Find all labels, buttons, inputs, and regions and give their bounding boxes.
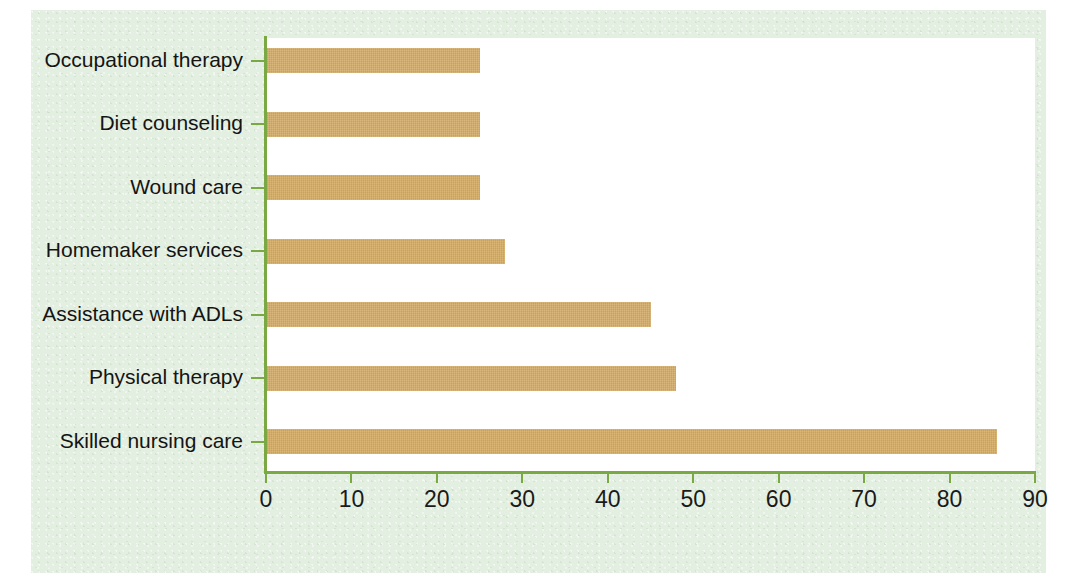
y-axis-tick: [251, 441, 264, 443]
y-axis-tick: [251, 123, 264, 125]
x-axis-tick-label: 10: [321, 486, 381, 513]
x-axis-tick: [265, 474, 267, 483]
bar: [266, 366, 676, 391]
y-axis-tick: [251, 187, 264, 189]
bar: [266, 239, 505, 264]
category-label: Skilled nursing care: [0, 429, 243, 453]
x-axis-line: [264, 471, 1036, 474]
x-axis-tick-label: 90: [1005, 486, 1065, 513]
x-axis-tick-label: 20: [407, 486, 467, 513]
bar: [266, 48, 480, 73]
category-label: Wound care: [0, 175, 243, 199]
x-axis-tick-label: 40: [578, 486, 638, 513]
x-axis-tick-label: 80: [920, 486, 980, 513]
y-axis-tick: [251, 377, 264, 379]
x-axis-tick-label: 50: [663, 486, 723, 513]
x-axis-tick: [607, 474, 609, 483]
x-axis-tick: [436, 474, 438, 483]
chart-figure: Occupational therapyDiet counselingWound…: [0, 0, 1077, 588]
bar: [266, 429, 997, 454]
x-axis-tick-label: 60: [749, 486, 809, 513]
category-label: Occupational therapy: [0, 48, 243, 72]
bar: [266, 302, 651, 327]
bar: [266, 175, 480, 200]
x-axis-tick: [350, 474, 352, 483]
x-axis-tick: [778, 474, 780, 483]
category-label: Homemaker services: [0, 238, 243, 262]
x-axis-tick: [1034, 474, 1036, 483]
x-axis-tick: [949, 474, 951, 483]
category-label: Diet counseling: [0, 111, 243, 135]
bar: [266, 112, 480, 137]
y-axis-line: [264, 36, 267, 474]
x-axis-tick: [863, 474, 865, 483]
y-axis-tick: [251, 250, 264, 252]
x-axis-tick: [692, 474, 694, 483]
y-axis-tick: [251, 60, 264, 62]
x-axis-tick-label: 0: [236, 486, 296, 513]
category-label: Physical therapy: [0, 365, 243, 389]
x-axis-tick: [521, 474, 523, 483]
x-axis-tick-label: 30: [492, 486, 552, 513]
y-axis-tick: [251, 314, 264, 316]
x-axis-tick-label: 70: [834, 486, 894, 513]
category-label: Assistance with ADLs: [0, 302, 243, 326]
